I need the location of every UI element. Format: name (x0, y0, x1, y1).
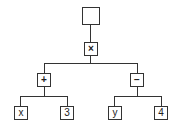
edge-minus-four (161, 96, 162, 106)
edge-root-times (90, 24, 91, 42)
edge-times-down (90, 56, 91, 63)
y-leaf-node: y (108, 106, 122, 120)
edge-times-plus (44, 63, 45, 73)
four-leaf-node: 4 (154, 106, 168, 120)
edge-plus-down (44, 87, 45, 96)
times-node: × (84, 42, 98, 56)
root-node-empty (82, 7, 100, 25)
edge-plus-three (67, 96, 68, 106)
edge-minus-horizontal (114, 96, 162, 97)
plus-node: + (37, 73, 51, 87)
three-leaf-node: 3 (60, 106, 74, 120)
edge-plus-x (20, 96, 21, 106)
edge-minus-down (137, 87, 138, 96)
edge-times-horizontal (44, 63, 138, 64)
edge-minus-y (114, 96, 115, 106)
edge-times-minus (137, 63, 138, 73)
edge-plus-horizontal (20, 96, 68, 97)
minus-node: − (130, 73, 144, 87)
x-leaf-node: x (14, 106, 28, 120)
